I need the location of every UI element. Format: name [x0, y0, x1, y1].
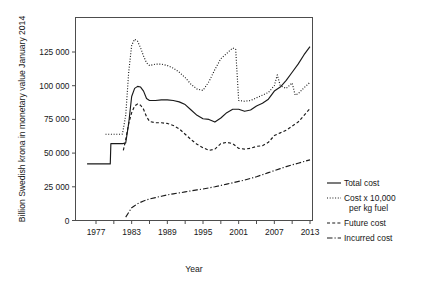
x-tick-label: 1983	[122, 227, 141, 237]
y-tick-label: 100 000	[39, 81, 70, 91]
x-axis-ticks	[96, 221, 310, 225]
y-axis-ticks	[72, 52, 76, 221]
x-tick-label: 1977	[87, 227, 106, 237]
series-line-1	[87, 47, 310, 164]
legend-label-2: Cost x 10,000	[344, 193, 396, 203]
y-tick-label: 125 000	[39, 47, 70, 57]
x-tick-label: 1995	[194, 227, 213, 237]
x-tick-label: 2013	[301, 227, 320, 237]
data-series-group	[87, 39, 310, 217]
y-tick-label: 75 000	[44, 114, 70, 124]
series-line-4	[126, 160, 310, 217]
y-tick-label: 0	[65, 216, 70, 226]
x-tick-label: 1989	[158, 227, 177, 237]
chart-figure: 025 00050 00075 000100 000125 000 197719…	[0, 0, 437, 291]
x-tick-label: 2007	[265, 227, 284, 237]
y-tick-label: 25 000	[44, 182, 70, 192]
legend-label-2-line2: per kg fuel	[349, 203, 388, 213]
chart-legend: Total costCost x 10,000per kg fuelFuture…	[327, 178, 396, 243]
y-axis-tick-labels: 025 00050 00075 000100 000125 000	[39, 47, 70, 226]
x-tick-label: 2001	[229, 227, 248, 237]
line-chart: 025 00050 00075 000100 000125 000 197719…	[0, 0, 437, 291]
x-axis-tick-labels: 1977198319891995200120072013	[87, 227, 320, 237]
legend-label-1: Total cost	[344, 178, 380, 188]
legend-label-3: Future cost	[344, 218, 387, 228]
y-tick-label: 50 000	[44, 148, 70, 158]
y-axis-title: Billion Swedish krona in monetary value …	[17, 16, 27, 223]
legend-label-4: Incurred cost	[344, 233, 393, 243]
x-axis-title: Year	[185, 264, 203, 274]
series-line-3	[123, 104, 310, 150]
